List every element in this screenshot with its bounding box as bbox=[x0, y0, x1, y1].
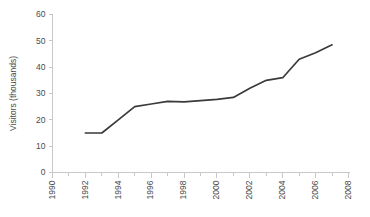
y-tick-label: 0 bbox=[41, 167, 46, 177]
x-tick-label: 2004 bbox=[277, 180, 287, 199]
x-tick-label: 2006 bbox=[310, 180, 320, 199]
chart-canvas: 0102030405060199019921994199619982000200… bbox=[0, 0, 370, 217]
x-tick-label: 1990 bbox=[47, 180, 57, 199]
y-tick-label: 30 bbox=[36, 88, 46, 98]
x-tick-label: 2000 bbox=[211, 180, 221, 199]
y-tick-label: 40 bbox=[36, 62, 46, 72]
data-series-line-1 bbox=[85, 45, 332, 133]
y-tick-label: 60 bbox=[36, 9, 46, 19]
y-tick-label: 10 bbox=[36, 141, 46, 151]
line-chart: 0102030405060199019921994199619982000200… bbox=[0, 0, 370, 217]
y-axis-title: Visitors (thousands) bbox=[8, 56, 18, 131]
x-tick-label: 2002 bbox=[244, 180, 254, 199]
x-tick-label: 1998 bbox=[178, 180, 188, 199]
y-tick-label: 20 bbox=[36, 115, 46, 125]
x-tick-label: 1992 bbox=[80, 180, 90, 199]
x-tick-label: 1996 bbox=[145, 180, 155, 199]
x-tick-label: 2008 bbox=[343, 180, 353, 199]
x-tick-label: 1994 bbox=[113, 180, 123, 199]
y-tick-label: 50 bbox=[36, 36, 46, 46]
